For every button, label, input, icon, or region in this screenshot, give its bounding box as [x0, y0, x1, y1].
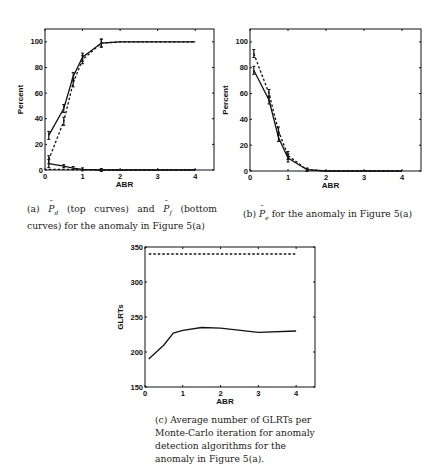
- caption-b-pe: Pe: [259, 208, 269, 219]
- y-tick-label: 100: [235, 37, 248, 46]
- caption-b: (b) Pe for the anomaly in Figure 5(a): [243, 207, 433, 224]
- y-axis-label: Percent: [16, 84, 25, 114]
- y-tick-label: 60: [35, 89, 43, 98]
- caption-a-prefix: (a): [27, 203, 48, 214]
- x-tick-label: 4: [294, 389, 299, 398]
- y-tick-label: 40: [35, 114, 43, 123]
- y-tick-label: 350: [130, 243, 143, 252]
- chart-b-plot: 01234020406080100ABRPercent: [220, 0, 443, 200]
- y-tick-label: 80: [240, 63, 248, 72]
- series-c-1: [149, 328, 296, 360]
- y-tick-label: 0: [39, 166, 43, 175]
- x-tick-label: 1: [181, 389, 185, 398]
- y-axis-label: GLRTs: [116, 304, 125, 330]
- axes-a: 01234020406080100ABRPercent: [16, 29, 214, 189]
- x-tick-label: 0: [143, 389, 147, 398]
- y-tick-label: 300: [130, 278, 143, 287]
- axes-c: 01234150200250300350ABRGLRTs: [116, 243, 315, 407]
- x-tick-label: 4: [193, 172, 198, 181]
- caption-a-mid: (top curves) and: [58, 203, 163, 214]
- chart-c: 01234150200250300350ABRGLRTs: [100, 230, 330, 414]
- y-tick-label: 150: [130, 383, 143, 392]
- x-tick-label: 3: [156, 172, 160, 181]
- y-tick-label: 200: [130, 348, 143, 357]
- x-tick-label: 4: [400, 173, 405, 182]
- caption-a-pf: Pf: [163, 203, 171, 214]
- caption-a: (a) Pd (top curves) and Pf (bottom curve…: [27, 202, 217, 232]
- x-tick-label: 3: [256, 389, 260, 398]
- series-a-1: [47, 39, 195, 164]
- y-tick-label: 20: [240, 141, 248, 150]
- x-tick-label: 3: [362, 173, 366, 182]
- x-tick-label: 0: [43, 172, 47, 181]
- x-axis-label: ABR: [322, 181, 340, 190]
- chart-b: 01234020406080100ABRPercent: [220, 0, 443, 204]
- y-tick-label: 0: [244, 167, 248, 176]
- chart-a: 01234020406080100ABRPercent: [0, 0, 220, 204]
- chart-a-plot: 01234020406080100ABRPercent: [0, 0, 220, 200]
- y-axis-label: Percent: [221, 85, 230, 115]
- y-tick-label: 100: [30, 37, 43, 46]
- axes-b: 01234020406080100ABRPercent: [221, 29, 421, 190]
- chart-c-plot: 01234150200250300350ABRGLRTs: [100, 230, 330, 410]
- caption-c: (c) Average number of GLRTs per Monte-Ca…: [155, 413, 315, 465]
- y-tick-label: 20: [35, 140, 43, 149]
- series-a-0: [47, 39, 195, 139]
- x-tick-label: 1: [80, 172, 84, 181]
- x-tick-label: 0: [248, 173, 252, 182]
- y-tick-label: 60: [240, 89, 248, 98]
- x-axis-label: ABR: [216, 397, 234, 406]
- caption-b-prefix: (b): [243, 208, 259, 219]
- y-tick-label: 40: [240, 115, 248, 124]
- series-b-1: [252, 50, 402, 172]
- caption-b-suffix: for the anomaly in Figure 5(a): [269, 208, 412, 219]
- x-axis-label: ABR: [116, 180, 134, 189]
- y-tick-label: 80: [35, 63, 43, 72]
- y-tick-label: 250: [130, 313, 143, 322]
- x-tick-label: 1: [286, 173, 290, 182]
- caption-a-pd: Pd: [48, 203, 58, 214]
